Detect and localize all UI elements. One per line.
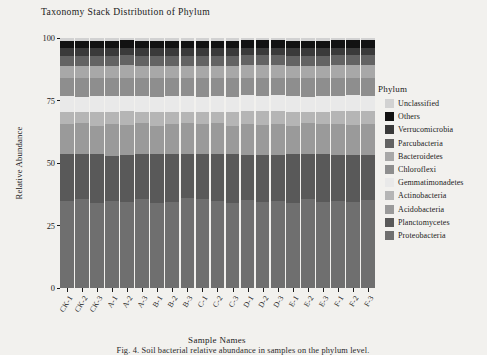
segment-acidobacteria[interactable] <box>226 126 240 155</box>
segment-acidobacteria[interactable] <box>241 124 255 155</box>
segment-verrucomicrobia[interactable] <box>211 48 225 56</box>
segment-actinobacteria[interactable] <box>346 111 360 125</box>
segment-gemmatimonadetes[interactable] <box>226 97 240 112</box>
segment-gemmatimonadetes[interactable] <box>75 97 89 112</box>
segment-gemmatimonadetes[interactable] <box>301 97 315 112</box>
segment-acidobacteria[interactable] <box>211 123 225 154</box>
segment-proteobacteria[interactable] <box>331 201 345 288</box>
segment-bacteroidetes[interactable] <box>196 66 210 79</box>
segment-parcubacteria[interactable] <box>105 56 119 66</box>
segment-acidobacteria[interactable] <box>150 126 164 155</box>
segment-planctomycetes[interactable] <box>60 154 74 200</box>
segment-bacteroidetes[interactable] <box>120 65 134 77</box>
segment-gemmatimonadetes[interactable] <box>331 96 345 111</box>
segment-parcubacteria[interactable] <box>90 56 104 66</box>
segment-proteobacteria[interactable] <box>361 200 375 288</box>
segment-chloroflexi[interactable] <box>135 78 149 96</box>
segment-actinobacteria[interactable] <box>150 112 164 126</box>
segment-chloroflexi[interactable] <box>196 78 210 97</box>
bar-A-1[interactable] <box>105 38 119 288</box>
segment-verrucomicrobia[interactable] <box>150 48 164 56</box>
segment-acidobacteria[interactable] <box>165 124 179 154</box>
segment-actinobacteria[interactable] <box>196 112 210 125</box>
segment-parcubacteria[interactable] <box>60 56 74 66</box>
segment-acidobacteria[interactable] <box>60 124 74 154</box>
segment-parcubacteria[interactable] <box>316 56 330 66</box>
segment-gemmatimonadetes[interactable] <box>90 96 104 112</box>
segment-others[interactable] <box>165 41 179 49</box>
segment-verrucomicrobia[interactable] <box>196 48 210 56</box>
segment-parcubacteria[interactable] <box>120 55 134 65</box>
segment-proteobacteria[interactable] <box>105 201 119 289</box>
segment-acidobacteria[interactable] <box>90 126 104 155</box>
segment-parcubacteria[interactable] <box>256 55 270 65</box>
segment-planctomycetes[interactable] <box>271 155 285 201</box>
segment-planctomycetes[interactable] <box>346 155 360 202</box>
segment-proteobacteria[interactable] <box>120 202 134 288</box>
bar-CK-1[interactable] <box>60 38 74 288</box>
segment-actinobacteria[interactable] <box>316 112 330 125</box>
segment-proteobacteria[interactable] <box>241 200 255 288</box>
segment-parcubacteria[interactable] <box>150 56 164 66</box>
segment-verrucomicrobia[interactable] <box>256 48 270 55</box>
segment-actinobacteria[interactable] <box>211 112 225 123</box>
segment-bacteroidetes[interactable] <box>256 65 270 77</box>
segment-acidobacteria[interactable] <box>135 123 149 154</box>
segment-proteobacteria[interactable] <box>150 203 164 288</box>
bar-CK-3[interactable] <box>90 38 104 288</box>
bar-B-2[interactable] <box>165 38 179 288</box>
segment-verrucomicrobia[interactable] <box>60 48 74 56</box>
segment-gemmatimonadetes[interactable] <box>316 96 330 112</box>
bar-E-1[interactable] <box>286 38 300 288</box>
segment-others[interactable] <box>75 41 89 49</box>
segment-actinobacteria[interactable] <box>241 111 255 123</box>
segment-chloroflexi[interactable] <box>256 78 270 97</box>
bar-B-3[interactable] <box>181 38 195 288</box>
segment-bacteroidetes[interactable] <box>135 66 149 79</box>
segment-actinobacteria[interactable] <box>286 112 300 126</box>
segment-chloroflexi[interactable] <box>301 78 315 97</box>
segment-gemmatimonadetes[interactable] <box>60 96 74 112</box>
segment-others[interactable] <box>90 41 104 49</box>
segment-acidobacteria[interactable] <box>331 124 345 155</box>
segment-bacteroidetes[interactable] <box>90 66 104 79</box>
segment-proteobacteria[interactable] <box>256 202 270 288</box>
segment-parcubacteria[interactable] <box>211 56 225 66</box>
segment-bacteroidetes[interactable] <box>301 66 315 79</box>
segment-bacteroidetes[interactable] <box>75 66 89 79</box>
segment-planctomycetes[interactable] <box>75 154 89 199</box>
segment-parcubacteria[interactable] <box>271 55 285 65</box>
segment-parcubacteria[interactable] <box>196 56 210 66</box>
segment-chloroflexi[interactable] <box>316 78 330 96</box>
legend-item-proteobacteria[interactable]: Proteobacteria <box>378 229 486 242</box>
segment-acidobacteria[interactable] <box>316 124 330 154</box>
segment-parcubacteria[interactable] <box>301 56 315 66</box>
segment-parcubacteria[interactable] <box>241 55 255 65</box>
legend-item-bacteroidetes[interactable]: Bacteroidetes <box>378 150 486 163</box>
segment-gemmatimonadetes[interactable] <box>211 96 225 112</box>
segment-chloroflexi[interactable] <box>165 78 179 96</box>
segment-acidobacteria[interactable] <box>256 125 270 155</box>
bar-CK-2[interactable] <box>75 38 89 288</box>
segment-parcubacteria[interactable] <box>361 55 375 65</box>
segment-acidobacteria[interactable] <box>181 123 195 154</box>
segment-acidobacteria[interactable] <box>271 124 285 155</box>
segment-actinobacteria[interactable] <box>135 112 149 123</box>
segment-others[interactable] <box>346 40 360 47</box>
segment-parcubacteria[interactable] <box>226 56 240 66</box>
segment-planctomycetes[interactable] <box>286 154 300 203</box>
segment-others[interactable] <box>150 41 164 49</box>
segment-parcubacteria[interactable] <box>75 56 89 66</box>
segment-others[interactable] <box>105 41 119 49</box>
segment-actinobacteria[interactable] <box>226 112 240 126</box>
segment-actinobacteria[interactable] <box>60 112 74 125</box>
segment-gemmatimonadetes[interactable] <box>346 95 360 111</box>
segment-chloroflexi[interactable] <box>226 78 240 97</box>
segment-proteobacteria[interactable] <box>286 203 300 288</box>
segment-others[interactable] <box>211 41 225 49</box>
segment-actinobacteria[interactable] <box>120 111 134 125</box>
segment-actinobacteria[interactable] <box>90 112 104 126</box>
segment-parcubacteria[interactable] <box>346 55 360 65</box>
legend-item-others[interactable]: Others <box>378 110 486 123</box>
segment-bacteroidetes[interactable] <box>286 66 300 79</box>
